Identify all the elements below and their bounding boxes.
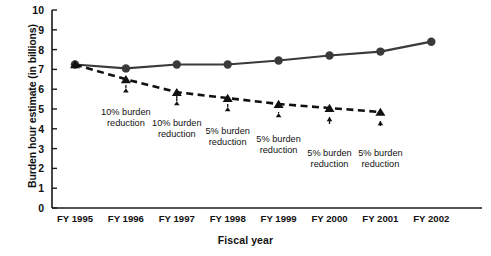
arrow-head-icon [276,113,282,117]
data-point-marker [427,37,435,45]
data-point-marker [375,108,385,116]
burden-hour-chart: Burden hour estimate (in billions) Fisca… [0,0,491,256]
data-point-marker [173,60,181,68]
arrow-head-icon [378,121,384,125]
data-point-marker [122,64,130,72]
annotation-arrows [123,85,383,126]
arrow-head-icon [174,101,180,105]
axes [52,10,482,208]
arrow-head-icon [225,107,231,111]
arrow-head-icon [327,117,333,121]
arrow-head-icon [123,88,129,92]
data-point-marker [274,56,282,64]
data-point-marker [325,51,333,59]
data-point-marker [376,47,384,55]
plot-area [0,0,491,256]
data-series [70,37,436,115]
data-point-marker [224,60,232,68]
